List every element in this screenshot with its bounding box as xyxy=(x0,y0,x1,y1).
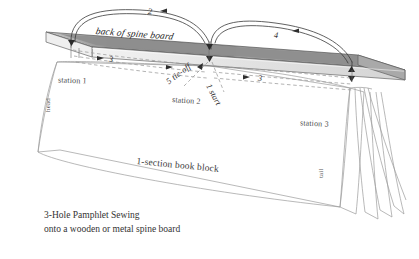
figure-caption: 3-Hole Pamphlet Sewing onto a wooden or … xyxy=(44,209,180,237)
direction-arrow-4 xyxy=(292,29,299,34)
arrowhead-station3-down xyxy=(348,76,355,82)
fanned-pages xyxy=(340,87,406,219)
sewing-step-2-label: 2 xyxy=(148,6,153,16)
tail-edge-label: tail xyxy=(317,168,325,178)
caption-line-1: 3-Hole Pamphlet Sewing xyxy=(44,209,180,223)
station-3-label: station 3 xyxy=(300,118,329,129)
fanned-page-4 xyxy=(364,88,404,214)
sewing-step-3a-label: 3 xyxy=(109,54,114,64)
sewing-step-3b-label: 3 xyxy=(258,73,263,83)
caption-line-2: onto a wooden or metal spine board xyxy=(44,223,180,237)
sewing-step-4-label: 4 xyxy=(274,30,279,40)
station-1-label: station 1 xyxy=(58,76,87,86)
head-edge-label: head xyxy=(44,98,52,112)
figure-canvas: back of spine board 2 4 3 3 5 tie-off 1 … xyxy=(0,0,419,259)
station-2-label: station 2 xyxy=(172,95,201,106)
fanned-page-2 xyxy=(355,88,378,219)
